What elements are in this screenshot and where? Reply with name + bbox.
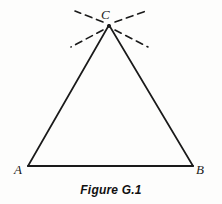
vertex-label-c: C <box>101 8 110 21</box>
apex-point-c <box>107 24 111 28</box>
triangle-side-ac <box>28 25 109 166</box>
figure-caption: Figure G.1 <box>0 183 222 197</box>
construction-ray-upper-right <box>115 11 146 22</box>
vertex-label-a: A <box>14 163 22 176</box>
figure-drawing-canvas <box>0 0 222 204</box>
geometry-figure: A B C Figure G.1 <box>0 0 222 204</box>
triangle-side-cb <box>109 25 193 166</box>
construction-ray-upper-left <box>75 11 103 22</box>
vertex-label-b: B <box>196 163 204 176</box>
